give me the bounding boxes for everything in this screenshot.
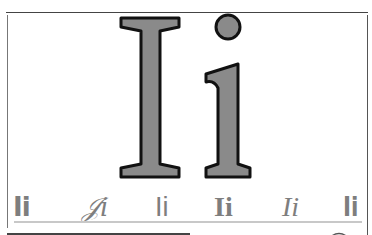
capital-i-glyph [121, 18, 179, 177]
sample-sans: Ii [155, 193, 169, 221]
frame-left-line [7, 15, 8, 228]
sample-italic-serif: Ii [282, 193, 299, 221]
sample-script: 𝒥i [82, 193, 108, 221]
sample-row-rule [14, 221, 362, 223]
sample-bold-sans: Ii [13, 193, 30, 221]
hero-letter-ii-illustration [112, 12, 262, 184]
sample-bold-serif: Ii [214, 193, 233, 221]
frame-right-line [367, 15, 368, 235]
sample-bold-condensed: Ii [343, 193, 358, 221]
lowercase-i-glyph [206, 15, 250, 177]
arc-decoration-icon [328, 228, 350, 235]
bottom-rule [7, 233, 190, 235]
